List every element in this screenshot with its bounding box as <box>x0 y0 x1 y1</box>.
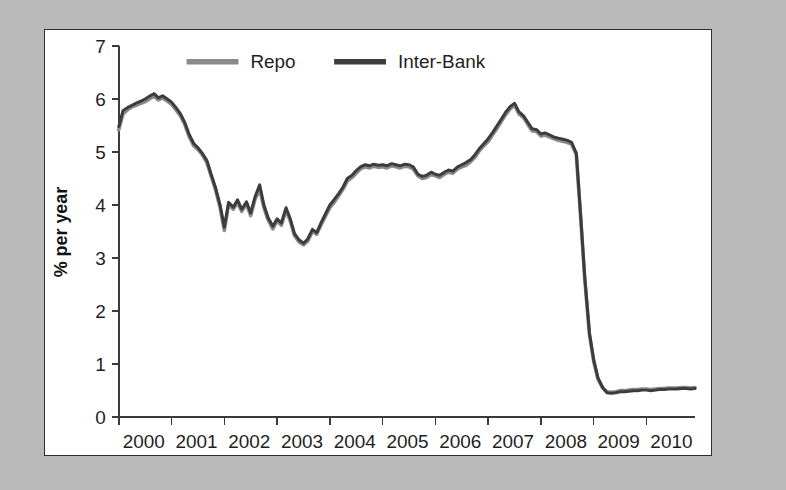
y-tick-label: 7 <box>95 36 106 57</box>
x-tick-label: 2005 <box>387 431 429 452</box>
y-tick-label: 6 <box>95 89 106 110</box>
x-tick-label: 2000 <box>123 431 165 452</box>
y-tick-label: 1 <box>95 354 106 375</box>
y-tick-label: 0 <box>95 407 106 428</box>
x-tick-label: 2009 <box>598 431 640 452</box>
x-tick-label: 2007 <box>492 431 534 452</box>
legend-label-inter-bank: Inter-Bank <box>398 51 486 72</box>
x-tick-label: 2010 <box>650 431 692 452</box>
chart-figure-panel: 01234567 2000200120022003200420052006200… <box>44 29 712 456</box>
y-tick-label: 3 <box>95 248 106 269</box>
y-tick-label: 4 <box>95 195 106 216</box>
y-tick-label: 2 <box>95 301 106 322</box>
x-axis-ticks: 2000200120022003200420052006200720082009… <box>119 417 693 452</box>
series-line-inter-bank <box>119 94 695 394</box>
series-lines <box>119 94 695 394</box>
y-axis-title: % per year <box>51 187 71 278</box>
legend-label-repo: Repo <box>250 51 295 72</box>
y-tick-label: 5 <box>95 142 106 163</box>
rates-line-chart: 01234567 2000200120022003200420052006200… <box>45 30 711 455</box>
x-tick-label: 2003 <box>281 431 323 452</box>
x-tick-label: 2002 <box>228 431 270 452</box>
x-tick-label: 2004 <box>334 431 376 452</box>
x-tick-label: 2008 <box>545 431 587 452</box>
series-line-repo <box>119 96 695 392</box>
x-tick-label: 2006 <box>439 431 481 452</box>
x-tick-label: 2001 <box>175 431 217 452</box>
chart-legend: RepoInter-Bank <box>187 51 486 72</box>
y-axis-ticks: 01234567 <box>95 36 118 428</box>
